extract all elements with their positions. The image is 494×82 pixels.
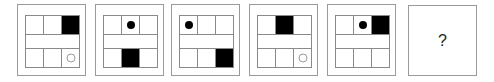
cell-top-right: [140, 16, 157, 34]
cell-top-left: [336, 16, 354, 34]
black-dot-icon: [185, 21, 193, 29]
grid-top-row: [336, 16, 389, 35]
black-square-icon: [372, 16, 389, 34]
grid-top-row: [258, 16, 311, 35]
grid-top-row: [104, 16, 157, 35]
grid-middle-row: [258, 35, 311, 49]
grid-bottom-row: [336, 49, 389, 67]
cell-bottom-left: [336, 49, 354, 67]
cell-bottom-left: [104, 49, 122, 67]
cell-top-middle: [276, 16, 294, 34]
grid-bottom-row: [258, 49, 311, 67]
grid: [257, 15, 312, 68]
grid-middle-row: [336, 35, 389, 49]
cell-top-right: [294, 16, 311, 34]
black-square-icon: [276, 16, 293, 34]
cell-bottom-right: [294, 49, 311, 67]
cell-top-left: [258, 16, 276, 34]
black-square-icon: [216, 49, 233, 67]
grid-bottom-row: [26, 49, 79, 67]
question-mark: ?: [409, 32, 476, 50]
grid-top-row: [26, 16, 79, 35]
cell-top-left: [104, 16, 122, 34]
grid-bottom-row: [180, 49, 233, 67]
cell-bottom-middle: [276, 49, 294, 67]
panel-4: [249, 4, 318, 76]
hollow-circle-icon: [66, 54, 75, 63]
cell-top-middle: [198, 16, 216, 34]
panel-5: [327, 4, 396, 76]
answer-panel[interactable]: ?: [408, 5, 477, 76]
black-square-icon: [122, 49, 139, 67]
cell-top-middle: [122, 16, 140, 34]
panel-2: [95, 4, 164, 76]
cell-bottom-right: [216, 49, 233, 67]
black-dot-icon: [359, 21, 367, 29]
cell-top-left: [26, 16, 44, 34]
panel-3: [171, 4, 240, 76]
cell-bottom-middle: [122, 49, 140, 67]
hollow-circle-icon: [298, 54, 307, 63]
panel-1: [17, 4, 86, 76]
grid: [25, 15, 80, 68]
cell-top-right: [372, 16, 389, 34]
black-square-icon: [62, 16, 79, 34]
grid: [179, 15, 234, 68]
grid-middle-row: [180, 35, 233, 49]
cell-bottom-left: [26, 49, 44, 67]
cell-bottom-middle: [44, 49, 62, 67]
cell-bottom-left: [258, 49, 276, 67]
grid-bottom-row: [104, 49, 157, 67]
grid-middle-row: [26, 35, 79, 49]
cell-top-right: [216, 16, 233, 34]
cell-top-right: [62, 16, 79, 34]
cell-bottom-left: [180, 49, 198, 67]
cell-top-left: [180, 16, 198, 34]
cell-top-middle: [44, 16, 62, 34]
grid: [103, 15, 158, 68]
grid-top-row: [180, 16, 233, 35]
grid: [335, 15, 390, 68]
cell-bottom-middle: [198, 49, 216, 67]
grid-middle-row: [104, 35, 157, 49]
cell-bottom-middle: [354, 49, 372, 67]
cell-bottom-right: [140, 49, 157, 67]
cell-bottom-right: [372, 49, 389, 67]
cell-top-middle: [354, 16, 372, 34]
cell-bottom-right: [62, 49, 79, 67]
black-dot-icon: [127, 21, 135, 29]
